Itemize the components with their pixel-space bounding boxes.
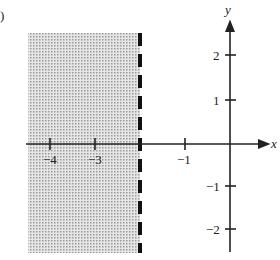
inequality-graph: ) −4 −3 −1 x 2 1 −1 −2 y (0, 0, 280, 260)
shaded-region (28, 33, 140, 253)
x-tick-label: −3 (88, 152, 102, 167)
figure-label: ) (0, 8, 4, 23)
y-tick-label: −1 (206, 179, 220, 194)
x-tick-label: −4 (43, 152, 57, 167)
y-axis: 2 1 −1 −2 y (206, 2, 236, 252)
x-tick-label: −1 (177, 152, 191, 167)
y-axis-label: y (223, 2, 231, 17)
y-tick-label: −2 (206, 222, 220, 237)
y-tick-label: 2 (213, 48, 220, 63)
y-tick-label: 1 (213, 93, 220, 108)
x-axis-label: x (270, 136, 277, 151)
